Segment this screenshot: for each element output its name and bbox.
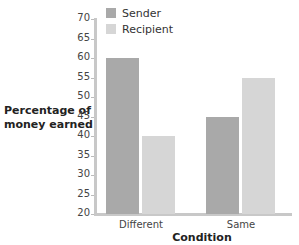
bar-same-recipient xyxy=(242,78,275,215)
x-category-same: Same xyxy=(206,219,276,230)
legend-swatch-sender xyxy=(106,8,116,18)
x-axis-label: Condition xyxy=(162,231,242,244)
x-category-different: Different xyxy=(106,219,176,230)
legend-item-recipient: Recipient xyxy=(106,23,173,36)
legend-item-sender: Sender xyxy=(106,7,161,20)
bar-different-sender xyxy=(106,58,139,214)
legend-label-recipient: Recipient xyxy=(122,23,173,36)
y-tick-label: 20 xyxy=(68,207,90,218)
y-tick-label: 35 xyxy=(68,149,90,160)
y-axis-line xyxy=(94,18,97,215)
legend-label-sender: Sender xyxy=(122,7,161,20)
bar-same-sender xyxy=(206,117,239,215)
y-tick-label: 65 xyxy=(68,32,90,43)
y-tick-label: 55 xyxy=(68,71,90,82)
y-tick-label: 30 xyxy=(68,168,90,179)
y-tick-label: 25 xyxy=(68,188,90,199)
y-tick-label: 45 xyxy=(68,110,90,121)
y-tick-label: 40 xyxy=(68,129,90,140)
y-tick-label: 50 xyxy=(68,90,90,101)
legend-swatch-recipient xyxy=(106,24,116,34)
y-tick-label: 70 xyxy=(68,12,90,23)
bar-different-recipient xyxy=(142,136,175,214)
y-tick-label: 60 xyxy=(68,51,90,62)
